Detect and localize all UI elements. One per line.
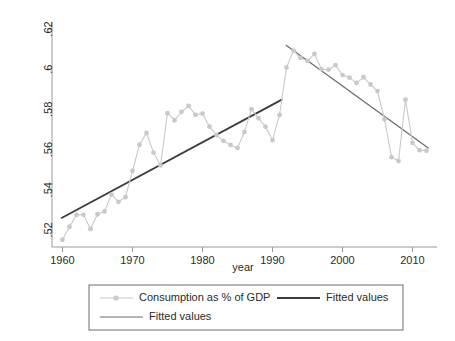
series-marker (277, 113, 282, 118)
series-marker (326, 67, 331, 72)
x-tick-label: 1960 (50, 254, 74, 266)
x-tick-label: 1970 (120, 254, 144, 266)
legend-marker-dot (113, 295, 118, 300)
series-marker (382, 117, 387, 122)
series-marker (158, 163, 163, 168)
series-marker (200, 111, 205, 116)
series-marker (95, 212, 100, 217)
series-marker (305, 59, 310, 64)
series-marker (193, 112, 198, 117)
y-tick-label: .6 (42, 65, 54, 74)
series-marker (368, 82, 373, 87)
series-marker (417, 148, 422, 153)
series-marker (375, 89, 380, 94)
series-marker (410, 141, 415, 146)
series-marker (165, 111, 170, 116)
series-marker (403, 97, 408, 102)
series-marker (263, 124, 268, 129)
series-marker (228, 143, 233, 148)
series-marker (256, 116, 261, 121)
plot-background (0, 0, 455, 341)
y-tick-label: .54 (42, 182, 54, 197)
series-marker (137, 142, 142, 147)
series-marker (347, 75, 352, 80)
series-marker (340, 73, 345, 78)
series-marker (109, 192, 114, 197)
series-marker (207, 124, 212, 129)
series-marker (319, 67, 324, 72)
series-marker (284, 65, 289, 70)
series-marker (123, 195, 128, 200)
x-tick-label: 2000 (330, 254, 354, 266)
series-marker (67, 224, 72, 229)
y-tick-label: .58 (42, 102, 54, 117)
series-marker (151, 150, 156, 155)
series-marker (270, 138, 275, 143)
legend-label-fitted-dark: Fitted values (326, 291, 389, 303)
legend-label-fitted-gray: Fitted values (149, 310, 212, 322)
series-marker (291, 48, 296, 53)
series-marker (396, 159, 401, 164)
series-marker (389, 155, 394, 160)
x-tick-label: 1980 (190, 254, 214, 266)
series-marker (179, 109, 184, 114)
chart-plot: .52.54.56.58.6.62 1960197019801990200020… (0, 0, 455, 341)
series-marker (312, 52, 317, 57)
series-marker (81, 212, 86, 217)
series-marker (235, 146, 240, 151)
series-marker (130, 168, 135, 173)
series-marker (172, 118, 177, 123)
series-marker (354, 80, 359, 85)
series-marker (102, 209, 107, 214)
legend-label-consumption: Consumption as % of GDP (139, 291, 270, 303)
x-tick-label: 2010 (400, 254, 424, 266)
x-tick-label: 1990 (260, 254, 284, 266)
series-marker (214, 133, 219, 138)
y-tick-label: .56 (42, 142, 54, 157)
series-marker (221, 139, 226, 144)
series-marker (186, 104, 191, 109)
series-marker (116, 199, 121, 204)
x-axis-title: year (232, 261, 254, 273)
series-marker (60, 237, 65, 242)
series-marker (249, 107, 254, 112)
chart-container: .52.54.56.58.6.62 1960197019801990200020… (0, 0, 455, 341)
series-marker (424, 148, 429, 153)
y-tick-label: .62 (42, 21, 54, 36)
series-marker (361, 75, 366, 80)
series-marker (242, 129, 247, 134)
series-marker (88, 227, 93, 232)
series-marker (298, 56, 303, 61)
y-tick-label: .52 (42, 222, 54, 237)
series-marker (144, 130, 149, 135)
series-marker (74, 212, 79, 217)
series-marker (333, 63, 338, 68)
